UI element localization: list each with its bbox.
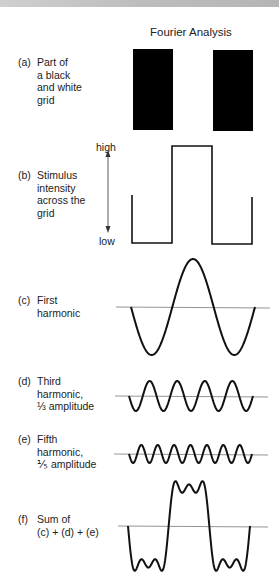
baseline-d (115, 396, 268, 397)
fourier-figure (0, 0, 279, 583)
square-wave (132, 146, 252, 244)
intensity-arrow-icon (106, 150, 111, 233)
baseline-c (116, 307, 270, 308)
grid-bar-left (133, 49, 173, 130)
baseline-f (118, 526, 268, 527)
grid-bar-right (213, 50, 253, 131)
